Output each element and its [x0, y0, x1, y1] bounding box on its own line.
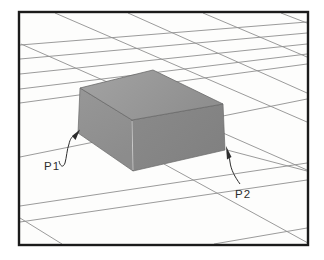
illustration-page: P1 P2	[0, 0, 324, 260]
label-p2: P2	[235, 188, 251, 200]
scene-3d-view: P1 P2	[0, 0, 324, 260]
label-p1: P1	[44, 160, 60, 172]
